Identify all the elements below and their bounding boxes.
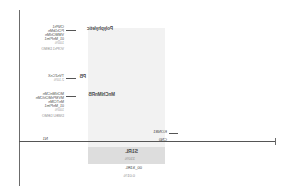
branch-tick-pb [66, 78, 76, 79]
node-label-pb[interactable]: PB [80, 75, 86, 80]
node-percent: 100% [36, 109, 64, 113]
baseline-left-cap [275, 138, 276, 145]
highlight-subtitle: 110% [125, 157, 135, 162]
baseline-axis [30, 141, 276, 142]
branch-tick-1 [169, 133, 178, 134]
node-detail-monophyletic: MChIMnCMn MVSPhMChICMn MnTCIMn 01_MnPIm1… [36, 93, 64, 113]
node-percent: 100% [45, 42, 64, 46]
right-vertical-axis [19, 10, 20, 186]
highlight-line3: 00_S1RL [125, 166, 142, 171]
figure-canvas: Polyphyletic CNPh1 PCh1bMn VMMChIMn 01_M… [0, 0, 298, 192]
baseline-label-n1[interactable]: N1 [43, 137, 48, 142]
highlight-title[interactable]: S1RL [125, 149, 138, 155]
node-detail-pb: TVnZCnX 2.10% [48, 75, 64, 83]
branch-label-konb1[interactable]: KONB1 [153, 130, 167, 135]
node-detail-polyphyletic: CNPh1 PCh1bMn VMMChIMn 01_MnPIm1 100% [45, 26, 64, 46]
node-demo-monophyletic: DWEU DEMO [42, 115, 64, 119]
highlight-line4: 0.01% [124, 174, 135, 179]
branch-tick-monophyletic [66, 96, 76, 97]
node-label-polyphyletic[interactable]: Polyphyletic [87, 27, 113, 32]
node-label-monophyletic[interactable]: MnChIMnRB [89, 93, 115, 98]
branch-label-cn0[interactable]: CN0 [159, 138, 167, 143]
node-percent: 2.10% [48, 79, 64, 83]
node-demo-polyphyletic: VOPh1 DEMO [42, 48, 64, 52]
branch-tick-polyphyletic [66, 30, 76, 31]
baseline-right-connector [19, 141, 36, 142]
